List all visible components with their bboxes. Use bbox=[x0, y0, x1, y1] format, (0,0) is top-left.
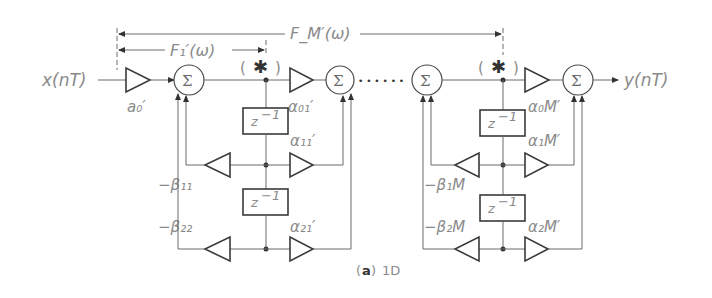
svg-text:α₀₁′: α₀₁′ bbox=[288, 98, 314, 116]
svg-text:a: a bbox=[362, 263, 371, 278]
amp-beta2-m bbox=[455, 237, 479, 261]
ellipsis: • • • • • • bbox=[358, 76, 404, 86]
svg-text:−β₂₂: −β₂₂ bbox=[158, 218, 192, 236]
svg-text:Σ: Σ bbox=[420, 72, 431, 90]
amp-alpha2-1 bbox=[290, 237, 313, 261]
svg-text:−1: −1 bbox=[498, 194, 517, 209]
svg-text:z: z bbox=[487, 201, 496, 216]
svg-text:Σ: Σ bbox=[333, 72, 344, 90]
svg-text:−β₁₁: −β₁₁ bbox=[158, 176, 192, 194]
svg-text:Σ: Σ bbox=[571, 72, 582, 90]
amp-beta1-m bbox=[455, 153, 479, 177]
svg-text:z: z bbox=[487, 116, 496, 131]
amp-beta2-1 bbox=[205, 237, 230, 261]
input-gain-label: a₀′ bbox=[127, 98, 146, 116]
svg-text:Σ: Σ bbox=[182, 72, 193, 90]
svg-text:−β₂M: −β₂M bbox=[424, 218, 465, 236]
svg-text:): ) bbox=[371, 263, 376, 278]
svg-text:(: ( bbox=[240, 59, 246, 77]
svg-text:−1: −1 bbox=[498, 109, 517, 124]
svg-text:α₁₁′: α₁₁′ bbox=[290, 132, 316, 150]
svg-text:(: ( bbox=[478, 59, 484, 77]
svg-text:−1: −1 bbox=[261, 188, 280, 203]
span-f1-label: F₁′(ω) bbox=[170, 41, 215, 60]
svg-text:z: z bbox=[250, 114, 259, 129]
svg-text:): ) bbox=[275, 59, 281, 77]
amp-alpha0-m bbox=[525, 68, 549, 92]
input-label: x(nT) bbox=[41, 70, 86, 90]
amp-alpha1-m bbox=[525, 153, 548, 177]
svg-text:α₂₁′: α₂₁′ bbox=[290, 218, 316, 236]
svg-text:−1: −1 bbox=[261, 107, 280, 122]
iir-filter-diagram: F_M′(ω) F₁′(ω) x(nT) a₀′ Σ ( ✱ ) α₀₁′ Σ … bbox=[0, 0, 712, 298]
svg-text:α₀M′: α₀M′ bbox=[528, 98, 561, 116]
section-m: Σ ( ✱ ) α₀M′ Σ y(nT) z −1 −β₁M α₁M′ z −1… bbox=[412, 56, 668, 261]
amp-alpha0-1 bbox=[290, 68, 313, 92]
svg-text:α₁M′: α₁M′ bbox=[528, 132, 561, 150]
svg-text:−β₁M: −β₁M bbox=[424, 176, 465, 194]
caption: ( a ) 1D bbox=[356, 263, 400, 278]
svg-text:α₂M′: α₂M′ bbox=[528, 218, 561, 236]
span-fm-label: F_M′(ω) bbox=[290, 24, 351, 44]
svg-text:z: z bbox=[250, 195, 259, 210]
svg-text:✱: ✱ bbox=[491, 56, 506, 77]
svg-text:(: ( bbox=[356, 263, 361, 278]
tap-marker: ✱ bbox=[253, 56, 268, 77]
span-f1: F₁′(ω) bbox=[119, 40, 266, 60]
svg-text:): ) bbox=[513, 59, 519, 77]
amp-alpha1-1 bbox=[290, 153, 313, 177]
amp-alpha2-m bbox=[525, 237, 548, 261]
amp-beta1-1 bbox=[205, 153, 230, 177]
output-label: y(nT) bbox=[623, 70, 668, 90]
svg-text:1D: 1D bbox=[382, 263, 400, 278]
section-1: Σ ( ✱ ) α₀₁′ Σ z −1 −β₁₁ α₁₁′ z −1 −β₂₂ … bbox=[158, 56, 354, 261]
input-gain-amp bbox=[126, 68, 150, 92]
